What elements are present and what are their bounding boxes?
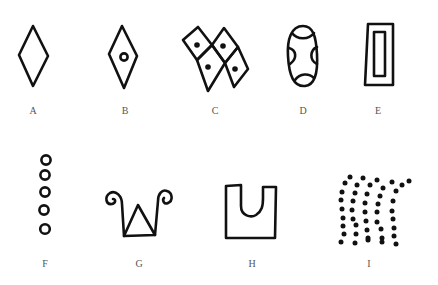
symbol-d-oval-arcs-icon — [288, 26, 317, 86]
symbol-b-rhombus-circle-icon — [109, 26, 137, 88]
symbol-c-rhombi-dots-icon — [183, 27, 248, 91]
label-i: I — [367, 259, 370, 269]
symbol-f-circle-column-icon — [39, 155, 50, 233]
label-g: G — [135, 259, 142, 269]
symbol-g-triangle-spirals-icon — [106, 191, 171, 236]
label-f: F — [42, 259, 48, 269]
label-b: B — [122, 106, 129, 116]
label-c: C — [212, 106, 219, 116]
label-h: H — [248, 259, 255, 269]
symbol-h-notched-square-icon — [226, 185, 276, 238]
label-d: D — [299, 106, 306, 116]
symbol-i-dot-field-icon — [339, 175, 412, 247]
label-e: E — [375, 106, 381, 116]
symbol-panel — [0, 0, 438, 285]
symbol-e-nested-rectangles-icon — [365, 24, 393, 85]
label-a: A — [29, 106, 36, 116]
symbol-a-rhombus-icon — [19, 26, 48, 86]
